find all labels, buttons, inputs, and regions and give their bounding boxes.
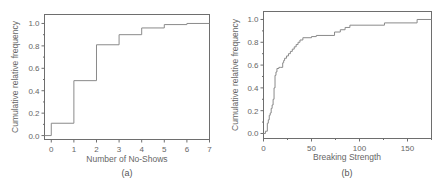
x-tick-label: 1 bbox=[72, 145, 77, 154]
x-axis-label-a: Number of No-Shows bbox=[86, 154, 167, 164]
chart-a: 0.00.20.40.60.81.0 01234567 Number of No… bbox=[10, 15, 212, 179]
x-tick-label: 150 bbox=[401, 144, 415, 153]
y-tick-label: 0.2 bbox=[28, 109, 40, 118]
x-tick-label: 2 bbox=[94, 145, 99, 154]
y-axis-a: 0.00.20.40.60.81.0 bbox=[28, 19, 44, 140]
y-tick-label: 0.0 bbox=[28, 132, 40, 141]
y-tick-label: 0.8 bbox=[247, 38, 259, 47]
x-tick-label: 0 bbox=[261, 144, 266, 153]
x-tick-label: 4 bbox=[139, 145, 144, 154]
caption-b: (b) bbox=[342, 168, 353, 178]
y-axis-label-a: Cumulative relative frequency bbox=[10, 20, 20, 133]
x-axis-label-b: Breaking Strength bbox=[313, 152, 381, 162]
x-tick-label: 3 bbox=[117, 145, 122, 154]
y-tick-label: 0.8 bbox=[28, 42, 40, 51]
y-tick-label: 0.2 bbox=[247, 107, 259, 116]
x-tick-label: 7 bbox=[207, 145, 212, 154]
y-tick-label: 1.0 bbox=[28, 19, 40, 28]
figure: 0.00.20.40.60.81.0 01234567 Number of No… bbox=[0, 0, 445, 189]
x-tick-label: 5 bbox=[162, 145, 167, 154]
y-tick-label: 0.6 bbox=[247, 61, 259, 70]
plot-frame-b bbox=[264, 12, 432, 139]
caption-a: (a) bbox=[122, 168, 133, 178]
y-tick-label: 0.4 bbox=[247, 84, 259, 93]
y-tick-label: 0.0 bbox=[247, 129, 259, 138]
cumulative-step-curve-b bbox=[264, 19, 432, 133]
x-axis-a: 01234567 bbox=[49, 140, 212, 154]
x-tick-label: 6 bbox=[185, 145, 190, 154]
plot-frame-a bbox=[45, 15, 210, 140]
x-axis-b: 050100150 bbox=[261, 139, 431, 153]
y-axis-b: 0.00.20.40.60.81.0 bbox=[247, 15, 263, 138]
y-tick-label: 0.6 bbox=[28, 64, 40, 73]
chart-b: 0.00.20.40.60.81.0 050100150 Breaking St… bbox=[230, 12, 432, 179]
x-tick-label: 0 bbox=[49, 145, 54, 154]
y-tick-label: 0.4 bbox=[28, 87, 40, 96]
y-tick-label: 1.0 bbox=[247, 15, 259, 24]
cumulative-step-curve-a bbox=[45, 23, 210, 135]
y-axis-label-b: Cumulative relative frequency bbox=[230, 18, 240, 131]
